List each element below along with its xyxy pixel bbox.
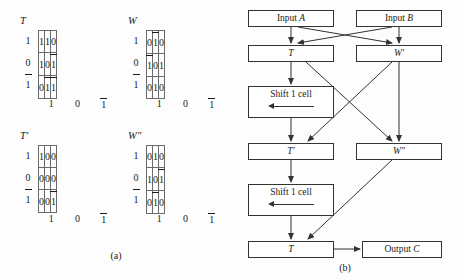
row-label: 0 (128, 52, 144, 74)
node-shift-2[interactable]: Shift 1 cell (248, 184, 334, 216)
cell: 0 (147, 31, 153, 54)
table-T-prime-row-labels: 1 0 1 (20, 145, 36, 210)
node-t-prime[interactable]: T′ (248, 143, 334, 160)
cell: 1 (45, 31, 51, 53)
row-label: 0 (128, 167, 144, 189)
cell: 0 (45, 190, 51, 213)
node-t-output-label: T (288, 245, 293, 255)
cell: 0 (45, 168, 51, 190)
cell: 1 (39, 53, 45, 76)
col-label: 1 (146, 212, 172, 226)
table-row: 0 1 1 (39, 76, 57, 99)
cell: 1 (51, 53, 57, 76)
cell: 1 (51, 76, 57, 99)
row-label: 1 (128, 73, 144, 95)
cell: 0 (159, 31, 165, 54)
table-T-grid: 1 1 0 1 0 1 0 1 1 (38, 30, 57, 99)
table-T-prime-col-labels: 1 0 1 (38, 212, 117, 226)
caption-b: (b) (325, 262, 365, 273)
col-label: 1 (91, 97, 117, 111)
node-t-label: T (288, 49, 293, 59)
table-row: 0 1 0 (147, 191, 165, 214)
cell: 1 (39, 146, 45, 168)
cell: 0 (39, 76, 45, 99)
node-shift-2-label: Shift 1 cell (270, 188, 312, 198)
col-label: 0 (172, 212, 198, 226)
table-W-col-labels: 1 0 1 (146, 97, 225, 111)
table-row: 1 0 1 (147, 168, 165, 191)
cell: 0 (51, 168, 57, 190)
node-t-output[interactable]: T (248, 241, 334, 258)
cell: 1 (159, 54, 165, 77)
col-label: 1 (91, 212, 117, 226)
figure-canvas: T 1 0 1 1 1 0 1 0 1 0 1 (0, 0, 462, 280)
node-output-c-label: Output C (384, 245, 419, 255)
row-label: 1 (128, 145, 144, 167)
table-W-grid: 0 1 0 1 0 1 0 1 0 (146, 30, 165, 99)
node-output-c[interactable]: Output C (362, 241, 442, 258)
cell: 0 (153, 168, 159, 191)
row-label: 0 (20, 167, 36, 189)
table-row: 1 0 1 (39, 53, 57, 76)
node-input-b[interactable]: Input B (356, 10, 442, 27)
col-label: 0 (172, 97, 198, 111)
caption-a: (a) (96, 250, 136, 261)
cell: 1 (159, 168, 165, 191)
col-label: 1 (199, 212, 225, 226)
row-label: 1 (128, 30, 144, 52)
table-row: 0 1 0 (147, 77, 165, 99)
table-row: 1 0 0 (39, 146, 57, 168)
col-label: 0 (64, 97, 90, 111)
col-label: 1 (38, 212, 64, 226)
node-shift-1-label: Shift 1 cell (270, 90, 312, 100)
table-W-double-prime-col-labels: 1 0 1 (146, 212, 225, 226)
cell: 1 (147, 168, 153, 191)
cell: 0 (147, 77, 153, 99)
cell: 0 (159, 146, 165, 168)
shift-left-arrow-icon (268, 102, 314, 111)
cell: 1 (45, 76, 51, 99)
table-row: 0 0 0 (39, 168, 57, 190)
table-W-row-labels: 1 0 1 (128, 30, 144, 95)
cell: 0 (159, 77, 165, 99)
cell: 1 (153, 77, 159, 99)
col-label: 1 (199, 97, 225, 111)
node-t[interactable]: T (248, 45, 334, 62)
cell: 1 (147, 54, 153, 77)
cell: 0 (153, 54, 159, 77)
row-label: 1 (20, 30, 36, 52)
cell: 0 (147, 191, 153, 214)
col-label: 1 (38, 97, 64, 111)
cell: 0 (147, 146, 153, 168)
table-T-row-labels: 1 0 1 (20, 30, 36, 95)
table-row: 0 0 1 (39, 190, 57, 213)
cell: 1 (153, 31, 159, 54)
table-W-double-prime-grid: 0 1 0 1 0 1 0 1 0 (146, 145, 165, 214)
cell: 1 (39, 31, 45, 53)
shift-left-arrow-icon (268, 200, 314, 209)
cell: 0 (51, 31, 57, 53)
row-label: 0 (20, 52, 36, 74)
cell: 1 (153, 146, 159, 168)
row-label: 1 (20, 188, 36, 210)
table-row: 0 1 0 (147, 146, 165, 168)
node-w-prime-label: W′ (394, 49, 404, 59)
cell: 0 (45, 146, 51, 168)
row-label: 1 (128, 188, 144, 210)
node-w-prime[interactable]: W′ (356, 45, 442, 62)
node-input-a-label: Input A (277, 14, 305, 24)
panel-b-diagram: Input A Input B T W′ Shift 1 cell T′ W″ … (232, 0, 462, 280)
cell: 0 (45, 53, 51, 76)
panel-a-tables: T 1 0 1 1 1 0 1 0 1 0 1 (0, 0, 232, 280)
table-row: 1 1 0 (39, 31, 57, 53)
node-input-b-label: Input B (385, 14, 413, 24)
table-row: 0 1 0 (147, 31, 165, 54)
table-W-double-prime-row-labels: 1 0 1 (128, 145, 144, 210)
diagram-connectors (232, 0, 462, 280)
node-input-a[interactable]: Input A (248, 10, 334, 27)
node-w-double-prime-label: W″ (393, 147, 405, 157)
cell: 1 (153, 191, 159, 214)
node-shift-1[interactable]: Shift 1 cell (248, 86, 334, 118)
node-w-double-prime[interactable]: W″ (356, 143, 442, 160)
row-label: 1 (20, 73, 36, 95)
